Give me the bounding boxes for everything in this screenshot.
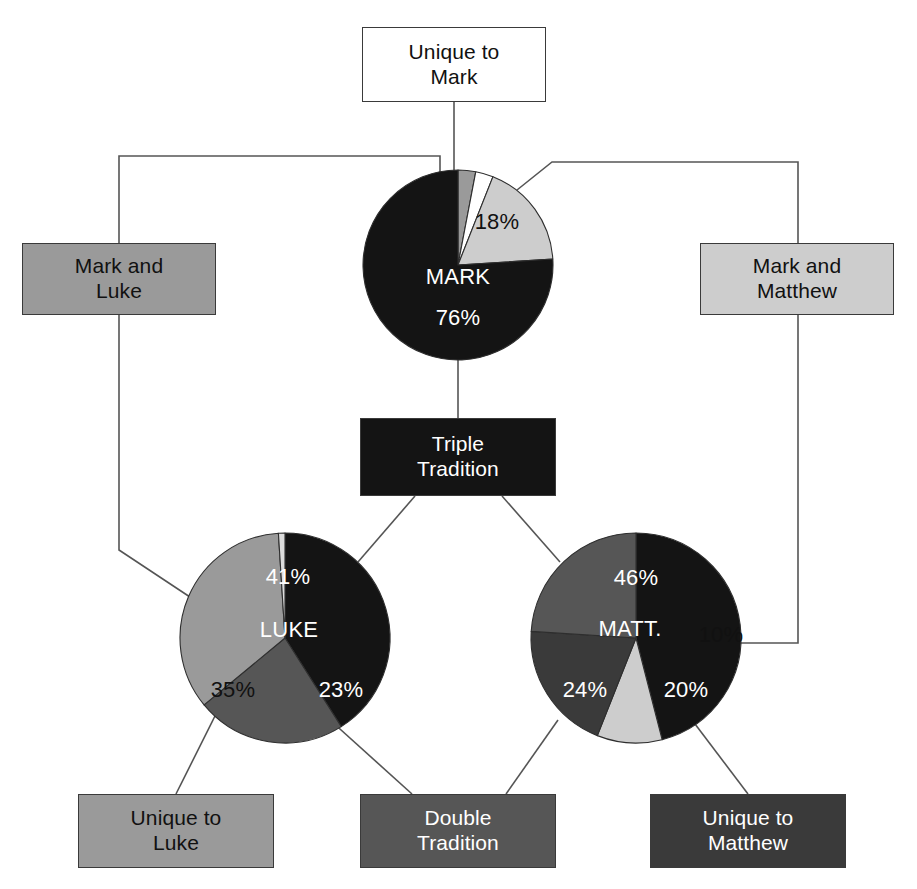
pie-slice-matthew-pie-3 bbox=[531, 533, 636, 638]
node-label-unique-to-luke: Unique to Luke bbox=[131, 806, 222, 856]
node-double-tradition[interactable]: Double Tradition bbox=[360, 794, 556, 868]
matthew-pie bbox=[531, 533, 741, 743]
luke-pie bbox=[180, 533, 390, 743]
node-label-mark-and-luke: Mark and Luke bbox=[75, 254, 163, 304]
node-label-triple-tradition: Triple Tradition bbox=[417, 432, 499, 482]
node-unique-to-matthew[interactable]: Unique to Matthew bbox=[650, 794, 846, 868]
node-unique-to-luke[interactable]: Unique to Luke bbox=[78, 794, 274, 868]
node-triple-tradition[interactable]: Triple Tradition bbox=[360, 418, 556, 496]
node-mark-and-matthew[interactable]: Mark and Matthew bbox=[700, 243, 894, 315]
node-label-double-tradition: Double Tradition bbox=[417, 806, 499, 856]
node-label-unique-to-matthew: Unique to Matthew bbox=[703, 806, 794, 856]
diagram-canvas: Unique to MarkMark and LukeMark and Matt… bbox=[0, 0, 917, 889]
node-mark-and-luke[interactable]: Mark and Luke bbox=[22, 243, 216, 315]
node-label-unique-to-mark: Unique to Mark bbox=[409, 40, 500, 90]
mark-pie bbox=[363, 170, 553, 360]
node-label-mark-and-matthew: Mark and Matthew bbox=[753, 254, 841, 304]
node-unique-to-mark[interactable]: Unique to Mark bbox=[362, 27, 546, 102]
